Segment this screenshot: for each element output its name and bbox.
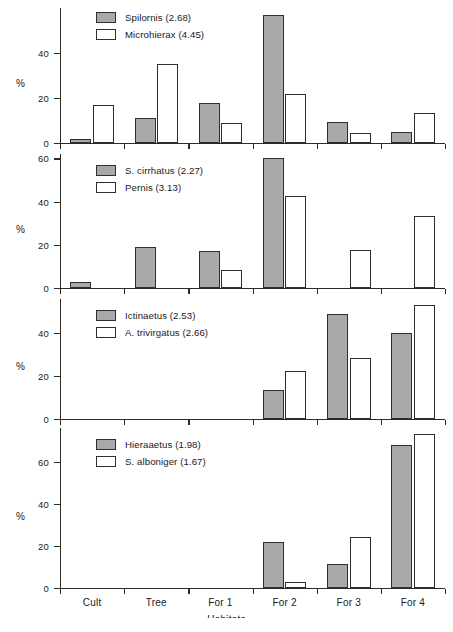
x-tick-4-2 xyxy=(188,589,189,594)
y-tick-label-4-3: 60 xyxy=(9,457,49,467)
x-tick-label-for1: For 1 xyxy=(192,597,248,608)
x-tick-label-for4: For 4 xyxy=(385,597,441,608)
x-tick-4-6 xyxy=(445,589,446,594)
legend-swatch-filled-icon xyxy=(96,439,116,450)
x-tick-4-0 xyxy=(60,589,61,594)
y-tick-label-4-1: 20 xyxy=(9,541,49,551)
chart-panel-4: 0204060%Hieraaetus (1.98)S. alboniger (1… xyxy=(0,0,453,632)
y-tick-4-2 xyxy=(54,504,60,505)
x-tick-4-3 xyxy=(253,589,254,594)
x-tick-label-for3: For 3 xyxy=(321,597,377,608)
x-tick-label-cult: Cult xyxy=(64,597,120,608)
legend-item-4-2: S. alboniger (1.67) xyxy=(96,454,206,468)
bar-p4-for2-s2 xyxy=(285,582,306,588)
legend-swatch-open-icon xyxy=(96,456,116,467)
legend-label-4-2: S. alboniger (1.67) xyxy=(125,456,206,467)
bar-p4-for3-s1 xyxy=(327,564,348,588)
legend-panel-4: Hieraaetus (1.98)S. alboniger (1.67) xyxy=(96,437,206,471)
x-tick-label-for2: For 2 xyxy=(257,597,313,608)
bar-p4-for4-s1 xyxy=(391,445,412,588)
y-tick-label-4-0: 0 xyxy=(9,584,49,594)
x-tick-label-tree: Tree xyxy=(128,597,184,608)
x-tick-4-4 xyxy=(317,589,318,594)
bar-p4-for2-s1 xyxy=(263,542,284,588)
y-axis-title-4: % xyxy=(16,511,25,522)
y-axis-line-4 xyxy=(60,428,61,589)
bar-p4-for4-s2 xyxy=(414,434,435,588)
x-tick-4-5 xyxy=(381,589,382,594)
legend-item-4-1: Hieraaetus (1.98) xyxy=(96,437,206,451)
bar-p4-for3-s2 xyxy=(350,537,371,588)
x-tick-4-1 xyxy=(124,589,125,594)
legend-label-4-1: Hieraaetus (1.98) xyxy=(125,439,201,450)
page-margin xyxy=(0,618,453,632)
y-tick-label-4-2: 40 xyxy=(9,499,49,509)
y-tick-4-3 xyxy=(54,462,60,463)
multi-panel-bar-figure: 02040%Spilornis (2.68)Microhierax (4.45)… xyxy=(0,0,453,632)
y-tick-4-1 xyxy=(54,546,60,547)
